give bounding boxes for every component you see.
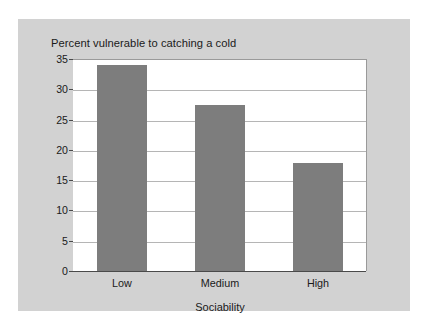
y-tick-label-10: 10 — [22, 204, 68, 216]
y-tick-mark-5 — [69, 241, 73, 242]
y-tick-mark-10 — [69, 210, 73, 211]
y-tick-label-0: 0 — [22, 265, 68, 277]
plot-area — [73, 59, 367, 271]
y-tick-label-20: 20 — [22, 144, 68, 156]
bar-medium[interactable] — [195, 105, 245, 271]
x-category-label-low: Low — [73, 277, 171, 289]
y-tick-mark-20 — [69, 150, 73, 151]
y-tick-mark-15 — [69, 180, 73, 181]
x-axis-title: Sociability — [73, 301, 367, 313]
y-tick-mark-35 — [69, 59, 73, 60]
y-tick-label-25: 25 — [22, 114, 68, 126]
y-tick-label-30: 30 — [22, 83, 68, 95]
bar-high[interactable] — [293, 163, 343, 271]
gridline-0 — [73, 271, 366, 272]
y-tick-label-5: 5 — [22, 235, 68, 247]
y-tick-mark-30 — [69, 89, 73, 90]
chart-panel: Percent vulnerable to catching a cold 05… — [18, 19, 410, 311]
y-tick-mark-25 — [69, 120, 73, 121]
chart-figure: Percent vulnerable to catching a cold 05… — [0, 0, 428, 331]
y-tick-label-15: 15 — [22, 174, 68, 186]
x-category-label-medium: Medium — [171, 277, 269, 289]
y-tick-mark-0 — [69, 271, 73, 272]
chart-title: Percent vulnerable to catching a cold — [51, 37, 236, 49]
y-tick-label-35: 35 — [22, 53, 68, 65]
x-category-label-high: High — [269, 277, 367, 289]
y-axis-tick-labels: 05101520253035 — [18, 59, 68, 272]
bar-low[interactable] — [97, 65, 147, 271]
